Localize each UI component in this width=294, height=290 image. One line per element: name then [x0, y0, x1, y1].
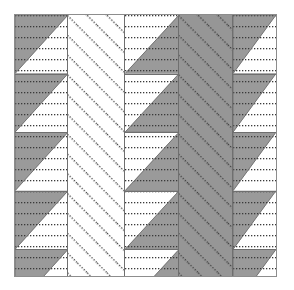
screenshot-canvas: [0, 0, 294, 290]
column-5-tiles: [233, 15, 276, 276]
column-diagonal-hatch-gray: [179, 15, 233, 276]
column-upper-left-triangles-b: [233, 15, 276, 276]
pattern-figure: [14, 14, 277, 277]
column-upper-left-triangles-a: [15, 15, 68, 276]
column-2-diagonal-hatch: [68, 15, 125, 276]
column-diagonal-hatch-white: [68, 15, 125, 276]
column-lower-right-triangles: [125, 15, 179, 276]
column-1-tiles: [15, 15, 68, 276]
column-3-tiles: [125, 15, 179, 276]
column-4-diagonal-hatch: [179, 15, 233, 276]
